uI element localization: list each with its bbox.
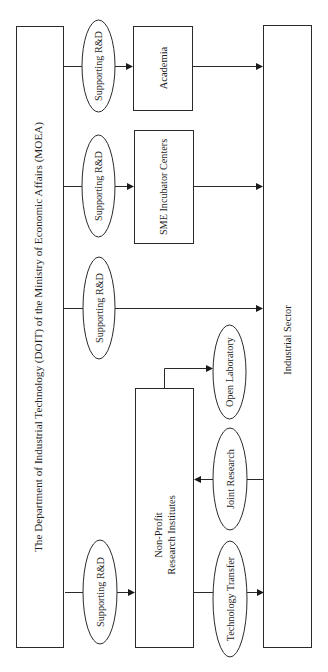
arrowhead-icon	[256, 183, 263, 190]
edge-technology-transfer: Technology Transfer	[194, 541, 265, 657]
edge-joint-research: Joint Research	[194, 428, 263, 530]
arrowhead-icon	[126, 63, 133, 70]
arrowhead-icon	[256, 305, 263, 312]
technology-transfer-label: Technology Transfer	[225, 556, 236, 641]
arrowhead-icon	[127, 183, 134, 190]
supporting-rd-label: Supporting R&D	[93, 151, 104, 221]
arrowhead-icon	[257, 589, 264, 596]
doit-node: The Department of Industrial Technology …	[17, 27, 64, 648]
arrowhead-icon	[128, 589, 135, 596]
arrowhead-icon	[256, 63, 263, 70]
supporting-rd-label: Supporting R&D	[94, 273, 105, 343]
edge-sme-industrial	[194, 183, 264, 190]
edge-doit-academia: Supporting R&D	[64, 20, 134, 112]
supporting-rd-label: Supporting R&D	[93, 31, 104, 101]
industrial-node: Industrial Sector	[264, 26, 312, 648]
nonprofit-node: Non-Profit Research Institutes	[136, 389, 194, 648]
nonprofit-label-line2: Research Institutes	[166, 495, 177, 575]
rd-support-diagram: The Department of Industrial Technology …	[0, 0, 328, 672]
sme-label: SME Incubator Centers	[158, 139, 169, 235]
edge-academia-industrial	[193, 63, 264, 70]
academia-node: Academia	[134, 27, 193, 111]
arrowhead-icon	[194, 476, 201, 483]
edge-doit-sme: Supporting R&D	[64, 135, 135, 237]
industrial-label: Industrial Sector	[282, 305, 293, 375]
open-laboratory-label: Open Laboratory	[224, 336, 235, 407]
nonprofit-label-line1: Non-Profit	[153, 512, 164, 558]
academia-label: Academia	[158, 46, 169, 89]
arrowhead-icon	[206, 365, 213, 372]
supporting-rd-label: Supporting R&D	[95, 557, 106, 627]
sme-node: SME Incubator Centers	[135, 131, 194, 244]
doit-label: The Department of Industrial Technology …	[32, 122, 45, 552]
joint-research-label: Joint Research	[225, 449, 236, 509]
edge-doit-nonprofit: Supporting R&D	[65, 540, 135, 644]
